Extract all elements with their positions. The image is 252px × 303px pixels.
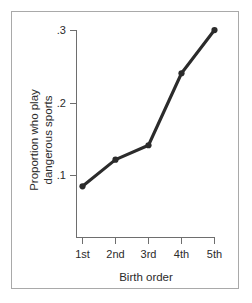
x-tick-label-2nd: 2nd	[106, 248, 124, 260]
y-tick-label-2: .2	[57, 97, 66, 109]
x-axis-title: Birth order	[119, 271, 173, 283]
data-point-5th	[211, 27, 217, 33]
line-chart-svg: .3 .2 .1 1st 2nd 3rd 4th 5th Birth order…	[0, 0, 252, 303]
y-axis-title-line-2: dangerous sports	[42, 95, 54, 184]
data-point-4th	[178, 70, 184, 76]
x-tick-label-3rd: 3rd	[141, 248, 157, 260]
x-tick-label-4th: 4th	[174, 248, 189, 260]
chart-plot-area: .3 .2 .1 1st 2nd 3rd 4th 5th Birth order…	[0, 0, 252, 303]
data-point-1st	[79, 183, 85, 189]
x-tick-label-5th: 5th	[207, 248, 222, 260]
y-axis-title-line-1: Proportion who play	[28, 89, 40, 191]
data-series-line	[83, 30, 215, 186]
data-point-2nd	[112, 157, 118, 163]
data-point-3rd	[145, 142, 151, 148]
x-tick-label-1st: 1st	[75, 248, 90, 260]
y-tick-label-1: .1	[57, 169, 66, 181]
chart-page: .3 .2 .1 1st 2nd 3rd 4th 5th Birth order…	[0, 0, 252, 303]
y-tick-label-3: .3	[57, 24, 66, 36]
